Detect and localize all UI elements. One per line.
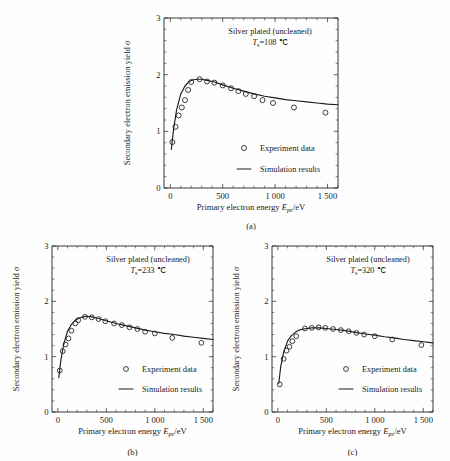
x-tick-label: 500 (320, 415, 333, 425)
data-point (372, 334, 377, 339)
legend-b: Experiment dataSimulation results (119, 365, 202, 394)
svg-text:(b): (b) (127, 447, 137, 457)
legend-marker-experiment (242, 146, 247, 151)
legend-c: Experiment dataSimulation results (339, 365, 422, 394)
legend-marker-experiment (124, 367, 129, 372)
x-tick-label: 1 000 (365, 415, 384, 425)
temperature-label: Ts=108 ℃ (252, 38, 287, 48)
legend-label-simulation: Simulation results (362, 385, 422, 394)
x-tick-label: 1 500 (414, 415, 433, 425)
legend-label-simulation: Simulation results (142, 385, 202, 394)
x-tick-label: 0 (168, 191, 172, 201)
legend-label-simulation: Simulation results (260, 165, 320, 174)
data-point (260, 98, 265, 103)
subplot-caption-c: (c) (348, 447, 358, 457)
simulation-curve-a (171, 79, 338, 149)
y-tick-label: 1 (44, 352, 48, 362)
x-axis-title-c: Primary electron energy Epe/eV (298, 426, 407, 437)
svg-text:Primary electron energy Epe/eV: Primary electron energy Epe/eV (78, 426, 187, 437)
data-point (419, 343, 424, 348)
y-tick-label: 3 (44, 241, 48, 251)
legend-marker-experiment (344, 367, 349, 372)
x-tick-label: 500 (100, 415, 113, 425)
data-point (323, 110, 328, 115)
x-tick-label: 1 000 (145, 415, 164, 425)
data-point (271, 101, 276, 106)
x-axis-title-b: Primary electron energy Epe/eV (78, 426, 187, 437)
chart-canvas-c: 012305001 0001 500Secondary electron emi… (228, 238, 443, 456)
data-point (186, 87, 191, 92)
data-point (204, 79, 209, 84)
legend-a: Experiment dataSimulation results (237, 144, 320, 174)
data-point (182, 98, 187, 103)
plot-annotation-c: Silver plated (uncleaned)Ts=320 ℃ (326, 255, 410, 276)
data-point (170, 335, 175, 340)
y-tick-label: 2 (156, 70, 160, 80)
material-label: Silver plated (uncleaned) (326, 255, 410, 264)
data-point (294, 334, 299, 339)
data-point (66, 336, 71, 341)
temperature-label: Ts=320 ℃ (350, 266, 385, 276)
data-point (69, 328, 74, 333)
svg-text:Secondary electron emission yi: Secondary electron emission yield σ (11, 266, 21, 391)
legend-label-experiment: Experiment data (142, 365, 197, 374)
subplot-caption-b: (b) (127, 447, 137, 457)
plot-annotation-a: Silver plated (uncleaned)Ts=108 ℃ (228, 27, 312, 48)
y-tick-label: 0 (44, 407, 48, 417)
chart-canvas-b: 012305001 0001 500Secondary electron emi… (8, 238, 223, 456)
simulation-curve-c (279, 328, 433, 383)
y-tick-label: 3 (156, 13, 160, 23)
data-point (277, 382, 282, 387)
experiment-points-a (170, 77, 328, 145)
x-tick-label: 0 (276, 415, 280, 425)
x-tick-label: 1 500 (318, 191, 337, 201)
y-tick-label: 1 (156, 126, 160, 136)
subplot-caption-a: (a) (246, 221, 256, 231)
experiment-points-c (277, 325, 423, 387)
y-axis-title-c: Secondary electron emission yield σ (231, 266, 241, 391)
y-axis-title-a: Secondary electron emission yield σ (122, 40, 132, 165)
y-tick-label: 2 (264, 296, 268, 306)
data-point (290, 339, 295, 344)
temperature-label: Ts=233 ℃ (130, 266, 165, 276)
x-tick-label: 500 (216, 191, 229, 201)
data-point (287, 344, 292, 349)
data-point (179, 105, 184, 110)
y-tick-label: 1 (264, 352, 268, 362)
svg-text:Primary electron energy Epe/eV: Primary electron energy Epe/eV (197, 202, 306, 213)
data-point (291, 105, 296, 110)
y-tick-label: 2 (44, 296, 48, 306)
figure-root: 012305001 0001 500Secondary electron emi… (0, 0, 450, 461)
chart-canvas-a: 012305001 0001 500Secondary electron emi… (118, 8, 348, 230)
svg-text:(c): (c) (348, 447, 358, 457)
material-label: Silver plated (uncleaned) (228, 27, 312, 36)
y-tick-label: 0 (156, 183, 160, 193)
subplot-a: 012305001 0001 500Secondary electron emi… (118, 8, 348, 230)
data-point (176, 113, 181, 118)
x-tick-label: 1 000 (265, 191, 284, 201)
y-tick-label: 3 (264, 241, 268, 251)
subplot-c: 012305001 0001 500Secondary electron emi… (228, 238, 443, 456)
plot-annotation-b: Silver plated (uncleaned)Ts=233 ℃ (106, 255, 190, 276)
x-axis-title-a: Primary electron energy Epe/eV (197, 202, 306, 213)
legend-label-experiment: Experiment data (260, 144, 315, 153)
x-tick-label: 0 (56, 415, 60, 425)
subplot-b: 012305001 0001 500Secondary electron emi… (8, 238, 223, 456)
svg-text:Primary electron energy Epe/eV: Primary electron energy Epe/eV (298, 426, 407, 437)
x-tick-label: 1 500 (194, 415, 213, 425)
svg-text:Secondary electron emission yi: Secondary electron emission yield σ (122, 40, 132, 165)
svg-text:(a): (a) (246, 221, 256, 231)
material-label: Silver plated (uncleaned) (106, 255, 190, 264)
legend-label-experiment: Experiment data (362, 365, 417, 374)
y-axis-title-b: Secondary electron emission yield σ (11, 266, 21, 391)
svg-text:Secondary electron emission yi: Secondary electron emission yield σ (231, 266, 241, 391)
data-point (199, 340, 204, 345)
y-tick-label: 0 (264, 407, 268, 417)
